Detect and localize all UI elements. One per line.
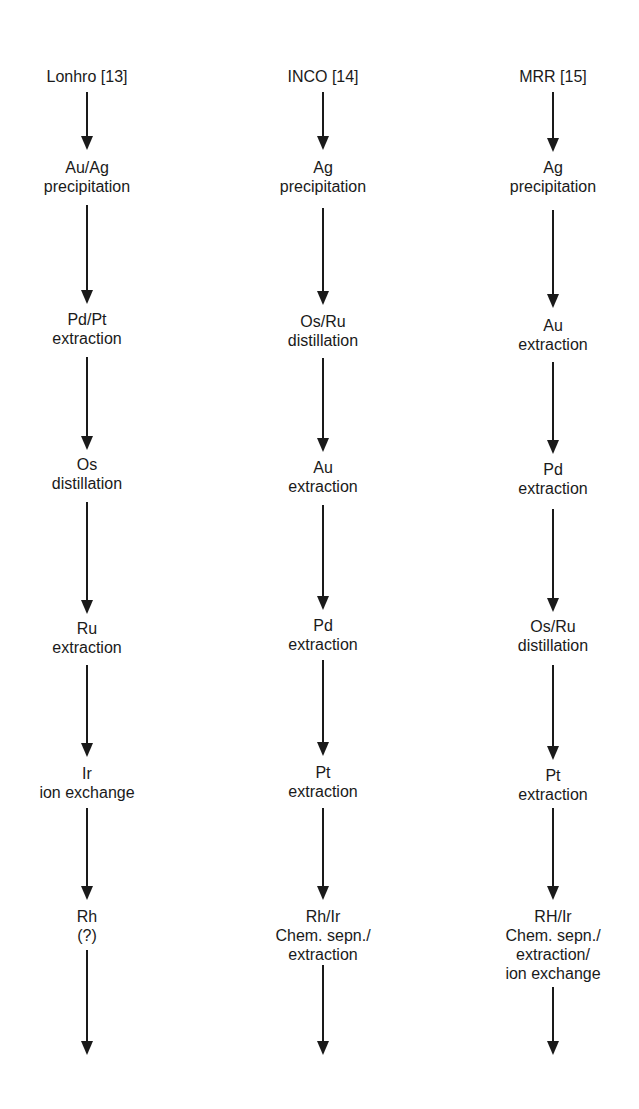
step-method-label: extraction (518, 479, 587, 498)
step-method-label: extraction (288, 635, 357, 654)
step-metal-label: Ag (280, 158, 366, 177)
step-method-label: extraction (275, 945, 370, 964)
step-method-label: extraction (52, 638, 121, 657)
process-step: Pdextraction (518, 460, 587, 498)
step-metal-label: Rh (77, 907, 97, 926)
process-step: Pdextraction (288, 616, 357, 654)
step-metal-label: RH/Ir (505, 907, 600, 926)
step-metal-label: Au (518, 316, 587, 335)
process-step: Ptextraction (288, 763, 357, 801)
process-step: RH/IrChem. sepn./extraction/ion exchange (505, 907, 600, 983)
process-step: Agprecipitation (280, 158, 366, 196)
column-header: INCO [14] (287, 67, 358, 86)
step-method-label: extraction/ (505, 945, 600, 964)
step-metal-label: Pt (518, 766, 587, 785)
process-step: Irion exchange (39, 764, 134, 802)
step-method-label: extraction (518, 335, 587, 354)
step-metal-label: Pt (288, 763, 357, 782)
process-step: Rh/IrChem. sepn./extraction (275, 907, 370, 964)
step-method-label: precipitation (44, 177, 130, 196)
step-metal-label: Au/Ag (44, 158, 130, 177)
process-step: Auextraction (288, 458, 357, 496)
step-method-label: Chem. sepn./ (505, 926, 600, 945)
process-step: Pd/Ptextraction (52, 310, 121, 348)
step-method-label: ion exchange (505, 964, 600, 983)
step-method-label: extraction (52, 329, 121, 348)
step-method-label: extraction (288, 477, 357, 496)
step-method-label: (?) (77, 926, 97, 945)
step-metal-label: Os/Ru (518, 617, 588, 636)
step-method-label: precipitation (510, 177, 596, 196)
step-method-label: extraction (288, 782, 357, 801)
column-header: MRR [15] (519, 67, 587, 86)
step-method-label: precipitation (280, 177, 366, 196)
step-method-label: extraction (518, 785, 587, 804)
step-method-label: distillation (518, 636, 588, 655)
step-metal-label: Os (52, 455, 122, 474)
column-header: Lonhro [13] (47, 67, 128, 86)
step-metal-label: Os/Ru (288, 312, 358, 331)
step-metal-label: Ru (52, 619, 121, 638)
step-method-label: distillation (52, 474, 122, 493)
step-metal-label: Rh/Ir (275, 907, 370, 926)
process-step: Os/Rudistillation (518, 617, 588, 655)
process-step: Au/Agprecipitation (44, 158, 130, 196)
step-metal-label: Au (288, 458, 357, 477)
process-step: Rh(?) (77, 907, 97, 945)
process-step: Agprecipitation (510, 158, 596, 196)
step-method-label: ion exchange (39, 783, 134, 802)
step-metal-label: Ag (510, 158, 596, 177)
step-metal-label: Pd (518, 460, 587, 479)
step-method-label: Chem. sepn./ (275, 926, 370, 945)
step-method-label: distillation (288, 331, 358, 350)
step-metal-label: Pd (288, 616, 357, 635)
step-metal-label: Pd/Pt (52, 310, 121, 329)
process-step: Os/Rudistillation (288, 312, 358, 350)
process-step: Osdistillation (52, 455, 122, 493)
process-step: Auextraction (518, 316, 587, 354)
process-step: Ptextraction (518, 766, 587, 804)
process-step: Ruextraction (52, 619, 121, 657)
step-metal-label: Ir (39, 764, 134, 783)
process-flow-diagram: Lonhro [13]Au/AgprecipitationPd/Ptextrac… (0, 0, 639, 1109)
